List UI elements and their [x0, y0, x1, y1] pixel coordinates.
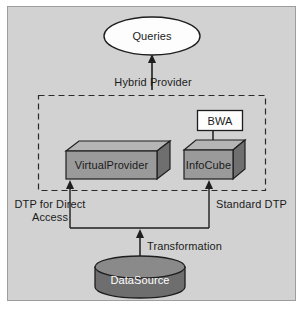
queries-node-label: Queries [104, 26, 200, 46]
edge-label-standard-dtp: Standard DTP [216, 198, 287, 211]
edge-label-transformation: Transformation [147, 240, 222, 253]
infocube-node-label: InfoCube [184, 150, 233, 179]
arrowhead-infocube [205, 180, 213, 189]
edge-label-dtp-direct-access: DTP for Direct Access [13, 198, 87, 223]
arrowhead-virtual-provider [66, 180, 74, 189]
bwa-node-label: BWA [197, 111, 243, 130]
arrowhead-transformation [136, 229, 144, 238]
diagram-canvas: Queries Hybrid Provider BWA VirtualProvi… [0, 0, 305, 309]
edge-label-hybrid-provider: Hybrid Provider [106, 76, 200, 89]
virtual-provider-node-label: VirtualProvider [66, 151, 157, 179]
datasource-node-label: DataSource [95, 268, 185, 292]
